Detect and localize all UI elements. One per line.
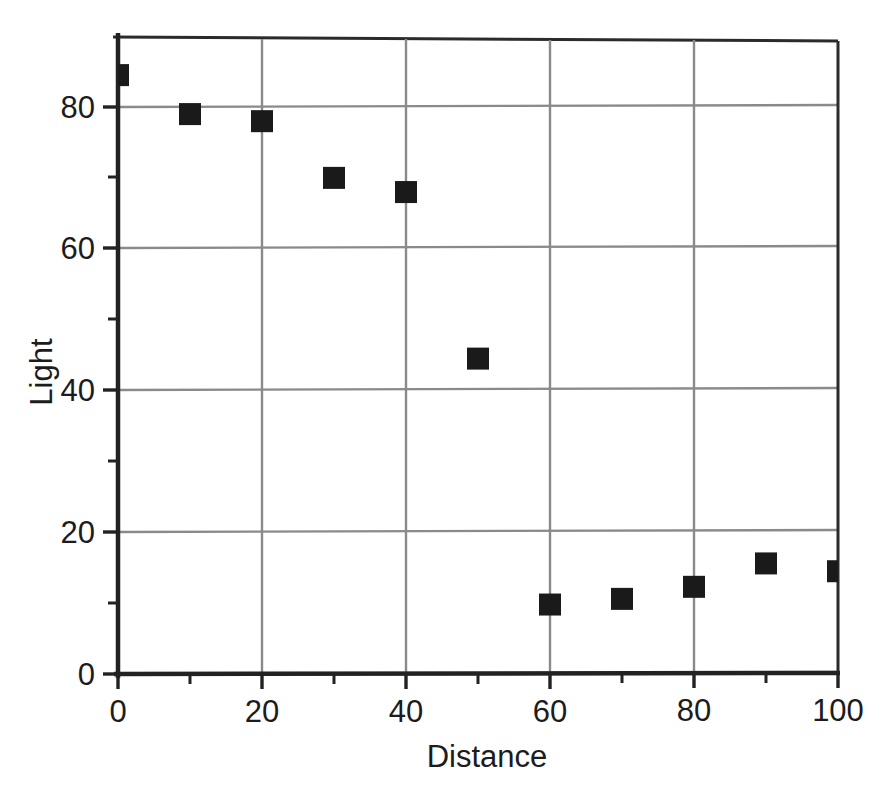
scatter-plot-figure: 0 20 40 60 80 0 20 40 60 80 100 Distance…	[0, 0, 896, 788]
y-tick-label-0: 0	[78, 657, 95, 692]
figure-background	[0, 0, 896, 788]
x-tick-label-80: 80	[677, 693, 711, 728]
data-point-marker	[179, 103, 201, 125]
y-tick-label-40: 40	[61, 373, 95, 408]
data-point-marker	[395, 181, 417, 203]
x-tick-label-40: 40	[389, 694, 423, 729]
data-point-marker	[251, 110, 273, 132]
x-tick-label-20: 20	[245, 694, 279, 729]
y-tick-label-80: 80	[61, 90, 95, 125]
x-tick-label-60: 60	[533, 694, 567, 729]
y-axis-title: Light	[24, 338, 59, 406]
y-tick-label-60: 60	[61, 231, 95, 266]
x-axis-line	[114, 673, 840, 674]
data-point-marker	[611, 588, 633, 610]
data-point-marker	[323, 167, 345, 189]
data-point-marker	[683, 576, 705, 598]
y-tick-label-20: 20	[61, 515, 95, 550]
x-tick-label-0: 0	[109, 694, 126, 729]
plot-canvas: 0 20 40 60 80 0 20 40 60 80 100 Distance…	[0, 0, 896, 788]
data-point-marker	[755, 552, 777, 574]
data-point-marker	[467, 348, 489, 370]
x-tick-label-100: 100	[812, 693, 864, 728]
x-axis-title: Distance	[427, 739, 548, 774]
data-point-marker	[539, 594, 561, 616]
